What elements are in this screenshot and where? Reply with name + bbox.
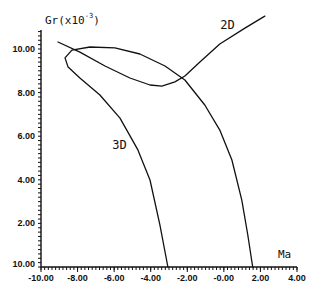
x-tick-label: -2.00 <box>177 273 198 283</box>
y-tick-label: 6.00 <box>17 131 35 141</box>
y-tick-label: 10.00 <box>12 259 35 269</box>
y-axis-title-base: Gr(x10 <box>45 14 85 27</box>
y-axis-title-exponent: -3 <box>85 12 93 20</box>
x-tick-label: -4.00 <box>140 273 161 283</box>
y-axis-title-close: ) <box>93 14 100 27</box>
x-tick-label: -6.00 <box>104 273 125 283</box>
axes <box>41 30 297 267</box>
y-tick-label: 8.00 <box>17 88 35 98</box>
tick-labels: -10.00-8.00-6.00-4.00-2.00-0.002.004.001… <box>12 44 305 283</box>
series-label-2d: 2D <box>220 18 234 32</box>
y-tick-label: 2.00 <box>17 218 35 228</box>
x-tick-label: -10.00 <box>28 273 54 283</box>
y-axis-title: Gr(x10-3) <box>45 12 100 27</box>
series-labels: 3D2D <box>112 18 234 152</box>
x-axis-title: Ma <box>278 248 291 261</box>
curve-3d <box>65 47 253 267</box>
y-tick-label: 4.00 <box>17 175 35 185</box>
series-label-3d: 3D <box>112 138 126 152</box>
x-tick-label: 2.00 <box>252 273 270 283</box>
x-tick-label: -8.00 <box>67 273 88 283</box>
curves <box>58 16 265 267</box>
stability-chart: -10.00-8.00-6.00-4.00-2.00-0.002.004.001… <box>0 0 316 291</box>
x-tick-label: 4.00 <box>288 273 306 283</box>
y-tick-label: 10.00 <box>12 44 35 54</box>
x-tick-label: -0.00 <box>214 273 235 283</box>
